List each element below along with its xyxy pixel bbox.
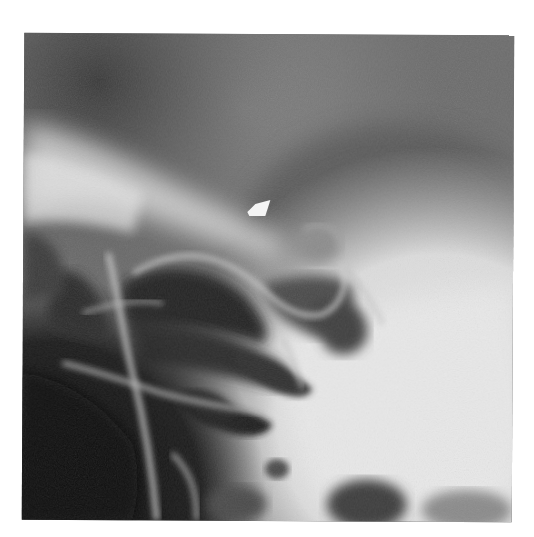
xray-rendering bbox=[22, 33, 515, 523]
arrow-marker-icon bbox=[245, 198, 275, 222]
xray-image bbox=[22, 33, 515, 523]
